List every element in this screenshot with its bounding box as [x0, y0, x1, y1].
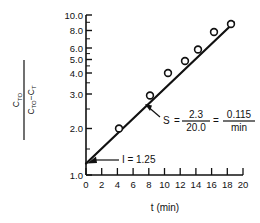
x-ticklabel-4: 4	[115, 179, 120, 190]
data-point	[211, 29, 218, 36]
y-ticklabel-6.0: 6.0	[70, 43, 83, 54]
intercept-annotation-label: I =	[122, 154, 134, 165]
y-ticklabel-10.0: 10.0	[65, 10, 84, 21]
semilog-plot-figure: 10.0 8.0 6.0 5.0 4.0 3.0 2.0 1.0 0 2 4 6…	[0, 0, 260, 223]
data-point	[147, 92, 154, 99]
slope-annotation-lhs: S	[163, 115, 170, 126]
slope-annotation: S = 2.3 20.0 = 0.115 min	[145, 104, 255, 133]
data-point	[195, 46, 202, 53]
y-ticklabel-1.0: 1.0	[70, 170, 83, 181]
y-axis-label-denominator-b-sub: T	[31, 85, 37, 89]
data-point	[182, 58, 189, 65]
plot-axes	[86, 15, 243, 175]
x-axis-ticks	[86, 168, 243, 175]
slope-annotation-equals-1: =	[174, 115, 180, 126]
y-axis-label-denominator: CTO−CT	[26, 85, 38, 114]
x-ticklabel-20: 20	[238, 179, 249, 190]
x-axis-label: t (min)	[151, 202, 179, 213]
slope-annotation-fraction2-numerator: 0.115	[227, 109, 252, 120]
y-ticklabel-4.0: 4.0	[70, 68, 83, 79]
data-point	[165, 70, 172, 77]
x-ticklabel-18: 18	[222, 179, 233, 190]
slope-annotation-fraction1-denominator: 20.0	[186, 122, 206, 133]
slope-annotation-equals-2: =	[213, 115, 219, 126]
y-ticklabel-5.0: 5.0	[70, 54, 83, 65]
x-ticklabel-8: 8	[146, 179, 151, 190]
slope-annotation-fraction2-denominator: min	[231, 122, 247, 133]
x-ticklabel-12: 12	[175, 179, 186, 190]
y-axis-label-numerator: CTO	[11, 92, 23, 107]
x-ticklabel-16: 16	[206, 179, 217, 190]
intercept-annotation-value: 1.25	[136, 154, 156, 165]
x-ticklabel-6: 6	[130, 179, 135, 190]
intercept-annotation: I = 1.25	[87, 154, 156, 165]
data-point	[116, 125, 123, 132]
y-axis-tick-labels: 10.0 8.0 6.0 5.0 4.0 3.0 2.0 1.0	[65, 10, 84, 181]
x-ticklabel-0: 0	[83, 179, 88, 190]
x-ticklabel-10: 10	[159, 179, 170, 190]
y-ticklabel-3.0: 3.0	[70, 89, 83, 100]
data-point	[228, 21, 235, 28]
y-ticklabel-2.0: 2.0	[70, 123, 83, 134]
y-ticklabel-8.0: 8.0	[70, 25, 83, 36]
fit-line	[86, 23, 234, 164]
x-ticklabel-14: 14	[191, 179, 202, 190]
x-ticklabel-2: 2	[99, 179, 104, 190]
y-axis-label: CTO CTO−CT	[11, 60, 37, 140]
x-axis-tick-labels: 0 2 4 6 8 10 12 14 16 18 20	[83, 179, 248, 190]
y-axis-label-numerator-sub: TO	[17, 92, 23, 101]
slope-annotation-fraction1-numerator: 2.3	[189, 109, 203, 120]
